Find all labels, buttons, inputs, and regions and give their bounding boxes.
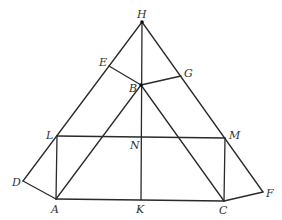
segment-da [23, 181, 56, 199]
point-label-c: C [219, 204, 228, 217]
point-label-f: F [265, 187, 274, 200]
point-label-e: E [98, 56, 107, 69]
point-label-h: H [136, 8, 147, 21]
segment-bg [141, 76, 181, 85]
segment-mc [224, 138, 225, 201]
point-label-l: L [45, 129, 53, 142]
segment-hk [141, 22, 142, 200]
vertex-dot-b [139, 83, 143, 87]
segment-ac [56, 199, 224, 201]
point-label-n: N [129, 139, 140, 152]
point-label-a: A [50, 203, 59, 216]
point-label-b: B [128, 82, 137, 95]
point-label-g: G [184, 67, 193, 80]
geometry-diagram: HEGBLNMDAKCF [0, 0, 282, 220]
point-label-m: M [228, 129, 241, 142]
segment-bc [141, 85, 224, 201]
point-label-d: D [11, 176, 21, 189]
segment-hd [23, 22, 142, 181]
segments-group [23, 22, 263, 201]
segment-cf [224, 192, 263, 201]
segment-hf [142, 22, 263, 192]
segment-la [56, 136, 57, 199]
point-label-k: K [135, 203, 145, 216]
segment-ba [56, 85, 141, 199]
